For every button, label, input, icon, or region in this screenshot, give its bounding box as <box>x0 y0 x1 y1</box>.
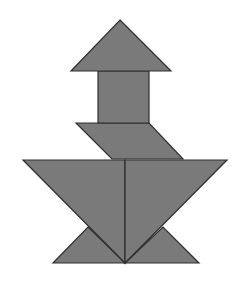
medium-triangle <box>71 20 171 71</box>
parallelogram <box>76 123 183 159</box>
square <box>98 71 149 123</box>
tangram-figure <box>0 0 243 281</box>
